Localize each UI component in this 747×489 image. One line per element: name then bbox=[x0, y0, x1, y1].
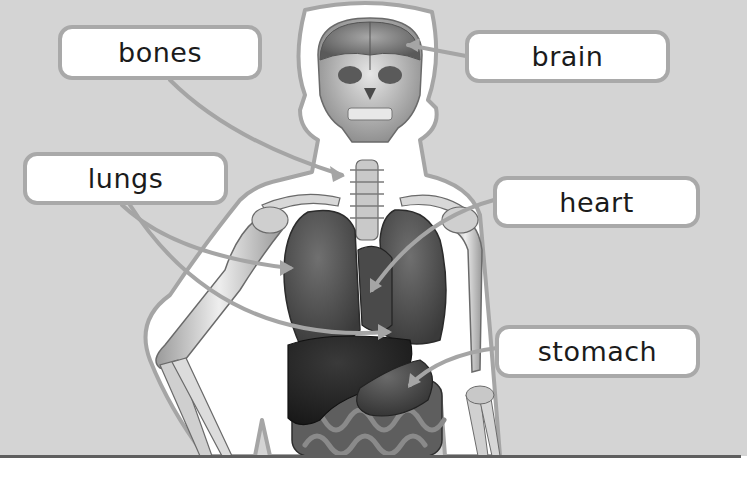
label-brain: brain bbox=[465, 30, 670, 83]
diagram-panel: bones brain lungs heart stomach bbox=[0, 0, 747, 456]
blank-footer bbox=[0, 458, 747, 489]
label-stomach: stomach bbox=[495, 325, 700, 378]
label-heart: heart bbox=[493, 176, 700, 228]
label-bones: bones bbox=[58, 25, 262, 80]
label-lungs: lungs bbox=[23, 152, 228, 205]
label-heart-text: heart bbox=[559, 187, 633, 218]
label-stomach-text: stomach bbox=[538, 336, 657, 367]
diagram-stage: bones brain lungs heart stomach bbox=[0, 0, 747, 489]
label-brain-text: brain bbox=[532, 41, 604, 72]
label-bones-text: bones bbox=[118, 37, 202, 68]
label-lungs-text: lungs bbox=[88, 163, 163, 194]
